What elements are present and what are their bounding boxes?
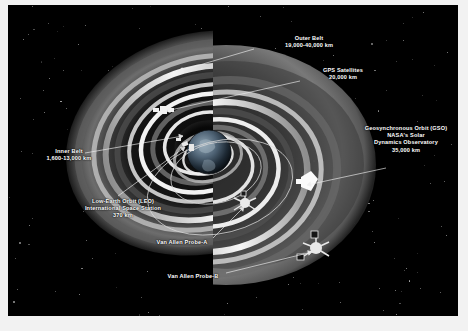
- label-line: Van Allen Probe-A: [140, 239, 224, 246]
- label-gps-satellites: GPS Satellites20,000 km: [303, 67, 383, 81]
- label-low-earth-orbit: Low-Earth Orbit (LEO)International Space…: [69, 198, 177, 220]
- label-line: Dynamics Observatory: [345, 139, 458, 146]
- radiation-belt-illustration: Outer Belt19,000-40,000 kmGPS Satellites…: [8, 5, 458, 316]
- figure-frame: Outer Belt19,000-40,000 kmGPS Satellites…: [0, 0, 468, 331]
- label-van-allen-probe-a: Van Allen Probe-A: [140, 239, 224, 246]
- label-line: 370 km: [69, 212, 177, 219]
- label-line: 19,000-40,000 km: [263, 42, 355, 49]
- label-van-allen-probe-b: Van Allen Probe-B: [151, 273, 235, 280]
- label-geosynchronous-orbit: Geosynchronous Orbit (GSO)NASA's SolarDy…: [345, 125, 458, 154]
- label-line: 1,600-13,000 km: [27, 155, 111, 162]
- label-line: 20,000 km: [303, 74, 383, 81]
- label-outer-belt: Outer Belt19,000-40,000 km: [263, 35, 355, 49]
- label-line: 35,000 km: [345, 147, 458, 154]
- label-line: Van Allen Probe-B: [151, 273, 235, 280]
- label-inner-belt: Inner Belt1,600-13,000 km: [27, 148, 111, 162]
- earth-globe: [187, 130, 231, 174]
